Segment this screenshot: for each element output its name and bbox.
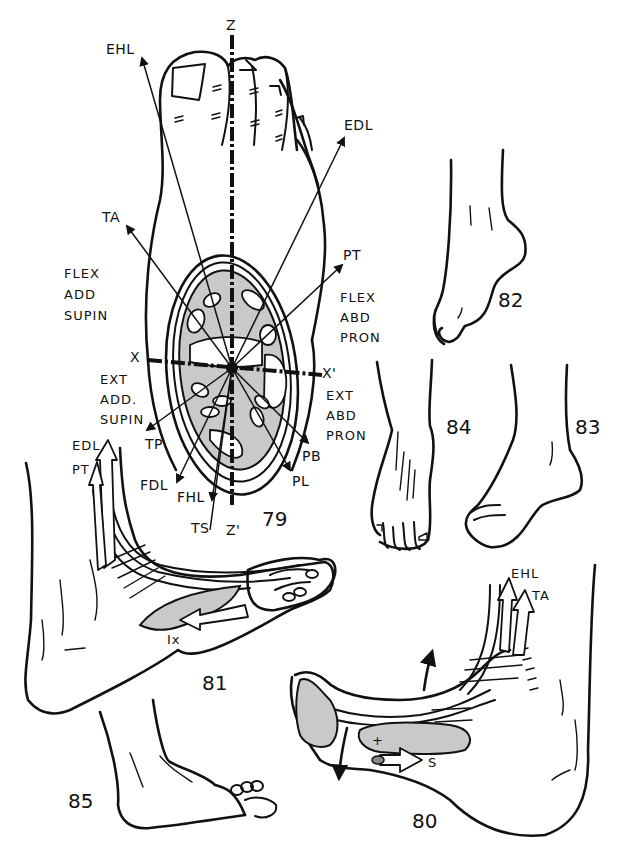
figure-number-79: 79 (262, 507, 287, 531)
figure-number-84: 84 (446, 415, 471, 439)
vector-label-ts: TS (190, 520, 209, 536)
label-plus: + (372, 733, 384, 748)
svg-text:EXT: EXT (326, 388, 354, 403)
axis-label-x-prime: X' (322, 365, 336, 381)
svg-text:SUPIN: SUPIN (64, 308, 108, 323)
label-s: S (428, 755, 437, 770)
label-ta-80: TA (531, 588, 550, 603)
axis-label-z-prime: Z' (226, 522, 240, 538)
label-edl-81: EDL (72, 438, 100, 453)
plantar-arrow (339, 728, 347, 778)
vector-label-pb: PB (302, 448, 321, 464)
anatomy-figure: Z Z' X X' EHL EDL TA PT TP FDL FHL TS PB… (0, 0, 623, 863)
vector-label-tp: TP (144, 436, 163, 452)
svg-text:SUPIN: SUPIN (100, 412, 144, 427)
figure-81: EDL PT Ix 81 (25, 438, 335, 713)
quadrant-upper-left: FLEX ADD SUPIN (64, 266, 108, 323)
svg-text:ADD: ADD (64, 287, 96, 302)
figure-number-80: 80 (412, 809, 437, 833)
label-pt-81: PT (72, 462, 90, 477)
figure-82: 82 (434, 150, 526, 344)
svg-text:PRON: PRON (326, 428, 367, 443)
label-ehl-80: EHL (511, 566, 539, 581)
svg-text:FLEX: FLEX (64, 266, 100, 281)
quadrant-lower-left: EXT ADD. SUPIN (100, 372, 144, 427)
vector-label-ta: TA (101, 209, 120, 225)
axis-label-x: X (130, 349, 140, 365)
figure-84: 84 (372, 360, 472, 550)
figure-number-82: 82 (498, 288, 523, 312)
figure-number-83: 83 (575, 415, 600, 439)
dorsiflexion-arrow (424, 652, 432, 690)
vector-label-fdl: FDL (140, 477, 168, 493)
svg-text:ABD: ABD (326, 408, 357, 423)
svg-text:PRON: PRON (340, 330, 381, 345)
label-ix: Ix (167, 632, 181, 647)
figure-number-81: 81 (202, 671, 227, 695)
vector-label-pl: PL (292, 473, 309, 489)
figure-80: + S EHL TA 80 (291, 565, 595, 836)
axis-label-z: Z (226, 17, 236, 33)
vector-label-pt: PT (343, 247, 361, 263)
svg-text:ABD: ABD (340, 310, 371, 325)
figure-83: 83 (466, 365, 601, 547)
svg-text:EXT: EXT (100, 372, 128, 387)
vector-label-fhl: FHL (177, 489, 205, 505)
vector-label-ehl: EHL (106, 41, 135, 57)
quadrant-upper-right: FLEX ABD PRON (340, 290, 381, 345)
svg-text:FLEX: FLEX (340, 290, 376, 305)
svg-text:ADD.: ADD. (100, 392, 137, 407)
figure-85: 85 (68, 700, 276, 828)
vector-label-edl: EDL (344, 117, 373, 133)
figure-number-85: 85 (68, 789, 93, 813)
quadrant-lower-right: EXT ABD PRON (326, 388, 367, 443)
